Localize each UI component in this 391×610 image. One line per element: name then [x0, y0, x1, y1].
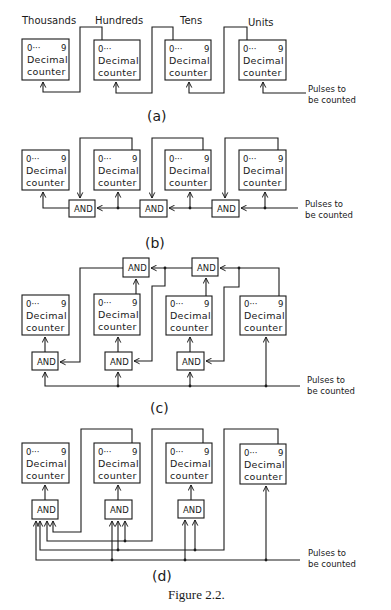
svg-text:counter: counter	[243, 177, 282, 188]
svg-text:0···: 0···	[26, 447, 40, 457]
svg-text:AND: AND	[110, 505, 129, 515]
panel-a: Thousands Hundreds Tens Units 0··· 9 Dec…	[21, 15, 356, 124]
svg-text:AND: AND	[74, 204, 93, 214]
svg-text:counter: counter	[27, 66, 66, 77]
counter-b1: 0··· 9 Decimal counter	[22, 150, 69, 190]
svg-text:9: 9	[204, 447, 209, 457]
svg-text:9: 9	[61, 154, 66, 164]
counter-c1: 0··· 9 Decimal counter	[22, 295, 69, 335]
counter-c2: 0··· 9 Decimal counter	[94, 294, 140, 335]
svg-text:counter: counter	[169, 67, 208, 78]
svg-text:AND: AND	[197, 263, 216, 273]
svg-text:Decimal: Decimal	[170, 310, 211, 321]
svg-text:counter: counter	[169, 177, 208, 188]
label-units: Units	[248, 17, 274, 28]
svg-text:0···: 0···	[243, 154, 257, 164]
svg-text:0···: 0···	[98, 154, 112, 164]
svg-text:0···: 0···	[98, 298, 112, 308]
svg-text:AND: AND	[37, 357, 56, 367]
and-gate-d2: AND	[105, 500, 132, 519]
svg-text:9: 9	[132, 154, 137, 164]
counter-thousands: 0··· 9 Decimal counter	[22, 39, 69, 80]
svg-text:be counted: be counted	[305, 210, 353, 220]
svg-text:Pulses to: Pulses to	[308, 548, 346, 558]
svg-text:Decimal: Decimal	[98, 458, 139, 469]
svg-text:counter: counter	[170, 322, 209, 333]
counter-b3: 0··· 9 Decimal counter	[165, 150, 211, 190]
svg-text:0···: 0···	[26, 299, 40, 309]
svg-text:AND: AND	[128, 263, 147, 273]
counter-d1: 0··· 9 Decimal counter	[22, 443, 69, 483]
svg-text:AND: AND	[110, 357, 129, 367]
svg-text:9: 9	[278, 448, 283, 458]
svg-text:counter: counter	[98, 321, 137, 332]
svg-text:9: 9	[278, 44, 283, 54]
svg-text:9: 9	[204, 299, 209, 309]
svg-text:Decimal: Decimal	[98, 165, 139, 176]
svg-text:be counted: be counted	[308, 559, 356, 569]
counter-b4: 0··· 9 Decimal counter	[239, 150, 286, 190]
svg-text:Decimal: Decimal	[98, 55, 139, 66]
svg-text:counter: counter	[98, 177, 137, 188]
counter-d2: 0··· 9 Decimal counter	[94, 443, 140, 483]
svg-text:0···: 0···	[244, 448, 258, 458]
counter-c3: 0··· 9 Decimal counter	[166, 296, 212, 335]
svg-text:0···: 0···	[98, 44, 112, 54]
svg-text:AND: AND	[183, 505, 202, 515]
svg-text:AND: AND	[145, 204, 164, 214]
label-hundreds: Hundreds	[95, 15, 143, 26]
svg-text:Decimal: Decimal	[243, 165, 284, 176]
svg-text:0···: 0···	[98, 447, 112, 457]
svg-text:counter: counter	[170, 470, 209, 481]
and-gate-d3: AND	[178, 500, 204, 518]
svg-text:9: 9	[204, 44, 209, 54]
pulses-label-line1: Pulses to	[308, 84, 346, 94]
panel-c: 0··· 9 Decimal counter 0··· 9 Decimal co…	[22, 258, 355, 416]
svg-text:AND: AND	[182, 357, 201, 367]
counter-tens: 0··· 9 Decimal counter	[165, 40, 211, 80]
svg-text:0···: 0···	[244, 299, 258, 309]
panel-d: 0··· 9 Decimal counter 0··· 9 Decimal co…	[22, 429, 356, 584]
svg-text:Decimal: Decimal	[243, 55, 284, 66]
svg-text:Decimal: Decimal	[26, 458, 67, 469]
panel-a-label: (a)	[147, 108, 167, 124]
pulse-input-wire	[263, 82, 306, 93]
svg-text:counter: counter	[98, 67, 137, 78]
svg-text:Decimal: Decimal	[26, 165, 67, 176]
svg-text:9: 9	[278, 299, 283, 309]
svg-text:0···: 0···	[169, 154, 183, 164]
panel-b-label: (b)	[145, 235, 165, 251]
and-gate-d1: AND	[32, 500, 58, 519]
svg-text:9: 9	[132, 447, 137, 457]
panel-c-label: (c)	[150, 400, 169, 416]
svg-text:counter: counter	[26, 470, 65, 481]
and-gate-c-top1: AND	[123, 258, 149, 277]
svg-text:0···: 0···	[27, 43, 41, 53]
svg-text:Decimal: Decimal	[244, 310, 285, 321]
svg-text:0···: 0···	[170, 447, 184, 457]
svg-text:9: 9	[132, 298, 137, 308]
counter-b2: 0··· 9 Decimal counter	[94, 150, 140, 190]
svg-text:Pulses to: Pulses to	[307, 375, 345, 385]
svg-text:counter: counter	[243, 67, 282, 78]
svg-text:Decimal: Decimal	[244, 459, 285, 470]
and-gate-b1: AND	[69, 200, 95, 217]
svg-text:AND: AND	[217, 204, 236, 214]
label-tens: Tens	[179, 15, 202, 26]
svg-text:Decimal: Decimal	[27, 54, 68, 65]
svg-text:counter: counter	[244, 471, 283, 482]
svg-text:counter: counter	[98, 470, 137, 481]
figure-caption: Figure 2.2.	[168, 587, 225, 602]
counter-c4: 0··· 9 Decimal counter	[240, 296, 286, 335]
and-gate-c1: AND	[32, 352, 58, 370]
svg-text:Decimal: Decimal	[170, 458, 211, 469]
counter-d3: 0··· 9 Decimal counter	[166, 443, 212, 483]
svg-text:9: 9	[278, 154, 283, 164]
and-gate-b3: AND	[212, 200, 239, 217]
svg-text:Pulses to: Pulses to	[305, 199, 343, 209]
svg-text:9: 9	[61, 43, 66, 53]
svg-text:Decimal: Decimal	[169, 55, 210, 66]
svg-text:Decimal: Decimal	[26, 310, 67, 321]
svg-text:counter: counter	[26, 322, 65, 333]
svg-text:AND: AND	[37, 505, 56, 515]
